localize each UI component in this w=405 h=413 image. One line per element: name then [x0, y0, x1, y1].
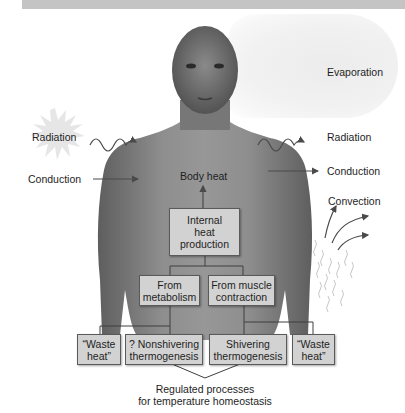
- radiation-out-label: Radiation: [327, 131, 371, 143]
- box-line: thermogenesis: [214, 350, 283, 362]
- box-line: metabolism: [143, 291, 197, 303]
- box-line: thermogenesis: [130, 350, 199, 362]
- box-line: heat”: [302, 350, 326, 362]
- radiation-in-label: Radiation: [32, 131, 76, 143]
- convection-arrows: [325, 206, 368, 250]
- waste-heat-left-box: “Waste heat”: [77, 334, 121, 365]
- box-line: “Waste: [297, 338, 330, 350]
- nonshivering-thermogenesis-box: ? Nonshivering thermogenesis: [125, 334, 203, 365]
- box-line: heat”: [87, 350, 111, 362]
- regulated-bracket: [172, 364, 240, 378]
- regulated-processes-caption: Regulated processes for temperature home…: [130, 383, 280, 407]
- head: [172, 26, 238, 114]
- caption-line: Regulated processes: [130, 383, 280, 395]
- conduction-in-label: Conduction: [28, 173, 81, 185]
- box-line: Internal: [187, 214, 222, 226]
- convection-squiggles: [314, 240, 354, 312]
- box-line: From muscle: [211, 279, 272, 291]
- box-line: “Waste: [83, 338, 116, 350]
- from-metabolism-box: From metabolism: [139, 275, 200, 306]
- shivering-thermogenesis-box: Shivering thermogenesis: [209, 334, 287, 365]
- conduction-out-label: Conduction: [327, 165, 380, 177]
- body-heat-label: Body heat: [180, 170, 227, 182]
- from-muscle-contraction-box: From muscle contraction: [208, 275, 275, 306]
- caption-line: for temperature homeostasis: [130, 395, 280, 407]
- evaporation-label: Evaporation: [327, 66, 383, 78]
- box-line: contraction: [216, 291, 267, 303]
- waste-heat-right-box: “Waste heat”: [292, 334, 335, 365]
- box-line: From: [157, 279, 182, 291]
- box-line: ? Nonshivering: [129, 338, 199, 350]
- box-line: Shivering: [226, 338, 270, 350]
- internal-heat-production-box: Internal heat production: [169, 208, 240, 256]
- convection-label: Convection: [328, 195, 381, 207]
- box-line: production: [180, 238, 229, 250]
- box-line: heat: [194, 226, 214, 238]
